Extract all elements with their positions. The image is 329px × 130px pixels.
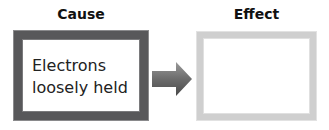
cause-heading: Cause: [14, 6, 148, 22]
cause-text: Electrons loosely held: [32, 55, 128, 99]
cause-box: Electrons loosely held: [14, 31, 148, 120]
cause-text-line-2: loosely held: [32, 77, 128, 99]
right-arrow-icon: [152, 62, 192, 96]
cause-text-line-1: Electrons: [32, 55, 128, 77]
effect-heading: Effect: [197, 6, 316, 22]
effect-box: [197, 32, 316, 120]
